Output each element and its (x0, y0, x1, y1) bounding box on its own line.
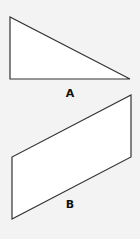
label-a: A (66, 88, 75, 99)
diagram-canvas: A B (0, 0, 140, 239)
label-b: B (66, 199, 74, 210)
triangle-a-shape (10, 17, 130, 79)
